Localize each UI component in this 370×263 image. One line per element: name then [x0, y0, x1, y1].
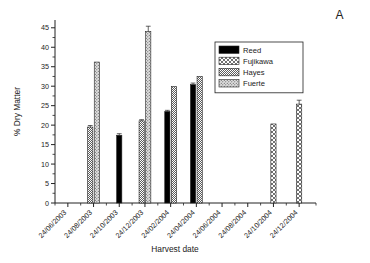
- bar-rect: [171, 87, 176, 203]
- legend-layer: ReedFujikawaHayesFuerte: [215, 42, 303, 93]
- bar-chart-svg: 051015202530354045% Dry Matter24/06/2003…: [0, 0, 370, 263]
- y-tick-label: 20: [41, 121, 49, 130]
- legend-label: Hayes: [243, 68, 265, 77]
- legend-swatch: [219, 68, 239, 75]
- bar-reed-24/04/2004: [190, 83, 195, 203]
- y-tick-label: 0: [45, 199, 49, 208]
- x-axis-title: Harvest date: [151, 244, 199, 254]
- y-tick-label: 25: [41, 101, 49, 110]
- bar-rect: [197, 76, 202, 203]
- bar-rect: [146, 32, 151, 203]
- bar-rect: [165, 112, 170, 204]
- legend-swatch: [219, 57, 239, 64]
- bar-rect: [94, 62, 99, 203]
- bar-hayes-24/02/2004: [171, 87, 176, 203]
- y-tick-label: 5: [45, 179, 49, 188]
- y-tick-label: 10: [41, 160, 49, 169]
- bar-reed-24/02/2004: [165, 110, 170, 203]
- bar-fuerte-24/12/2003: [146, 26, 151, 203]
- bar-hayes-24/12/2003: [139, 120, 144, 203]
- legend-label: Fujikawa: [243, 57, 274, 66]
- bar-fujikawa-24/10/2004: [271, 124, 276, 203]
- panel-letter: A: [335, 8, 344, 22]
- y-tick-label: 40: [41, 43, 49, 52]
- y-tick-label: 15: [41, 140, 49, 149]
- legend-label: Reed: [243, 46, 261, 55]
- y-tick-label: 45: [41, 23, 49, 32]
- bar-reed-24/10/2003: [117, 134, 122, 203]
- bar-rect: [139, 121, 144, 203]
- bar-rect: [271, 124, 276, 203]
- bar-rect: [190, 85, 195, 203]
- y-axis-title: % Dry Matter: [12, 87, 22, 136]
- x-tick-label: 24/12/2004: [268, 208, 300, 240]
- legend-label: Fuerte: [243, 79, 265, 88]
- legend-swatch: [219, 46, 239, 53]
- bar-rect: [297, 104, 302, 203]
- bar-rect: [117, 135, 122, 203]
- bar-hayes-24/08/2003: [88, 126, 93, 203]
- y-tick-label: 35: [41, 62, 49, 71]
- bar-fujikawa-24/12/2004: [297, 100, 302, 203]
- chart-figure: A 051015202530354045% Dry Matter24/06/20…: [0, 0, 370, 263]
- bar-fuerte-24/08/2003: [94, 62, 99, 203]
- y-tick-label: 30: [41, 82, 49, 91]
- legend-swatch: [219, 80, 239, 87]
- bar-hayes-24/04/2004: [197, 76, 202, 203]
- legend-item-fujikawa: Fujikawa: [219, 57, 274, 66]
- bar-rect: [88, 127, 93, 203]
